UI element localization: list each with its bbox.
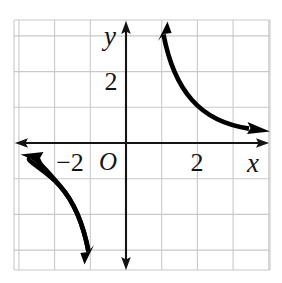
grid-lines [14, 20, 270, 270]
origin-label: O [99, 148, 117, 175]
curve-right-arrowhead [247, 122, 270, 134]
curve-branch-quadrant-1 [164, 35, 250, 129]
axes [15, 21, 269, 270]
x-axis-tick-label-negative-2: −2 [56, 148, 84, 177]
graph-figure: y 2 O −2 2 x [0, 0, 282, 283]
x-axis-tick-label-2: 2 [191, 148, 204, 177]
y-axis-label: y [101, 21, 116, 51]
y-axis-tick-label-2: 2 [105, 67, 118, 96]
x-axis-label: x [246, 148, 259, 178]
coordinate-plane-svg: y 2 O −2 2 x [0, 0, 282, 283]
